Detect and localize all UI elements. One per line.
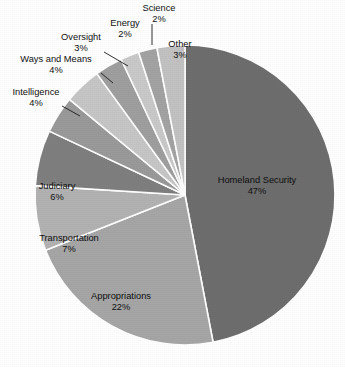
slice-label-ways-and-means: Ways and Means4% [20, 54, 92, 75]
slice-label-name: Homeland Security [218, 175, 297, 185]
slice-label-science: Science2% [142, 3, 175, 24]
slice-label-value: 2% [152, 14, 165, 24]
slice-label-name: Energy [110, 18, 140, 28]
pie-slices-group [35, 45, 335, 345]
pie-chart-canvas: Homeland Security47%Appropriations22%Tra… [0, 0, 345, 367]
slice-label-value: 47% [248, 186, 267, 196]
slice-label-energy: Energy2% [110, 18, 140, 39]
slice-label-name: Science [142, 3, 175, 13]
slice-label-value: 2% [118, 29, 131, 39]
slice-label-value: 3% [74, 43, 87, 53]
slice-label-value: 4% [49, 65, 62, 75]
slice-label-intelligence: Intelligence4% [12, 87, 59, 108]
slice-label-value: 7% [62, 244, 75, 254]
slice-label-name: Judiciary [39, 181, 76, 191]
slice-label-name: Oversight [61, 32, 101, 42]
pie-chart-figure: Homeland Security47%Appropriations22%Tra… [0, 0, 345, 367]
slice-label-name: Intelligence [12, 87, 59, 97]
slice-label-value: 3% [173, 50, 186, 60]
slice-label-value: 22% [112, 302, 131, 312]
slice-label-name: Ways and Means [20, 54, 92, 64]
slice-label-name: Appropriations [91, 291, 151, 301]
slice-label-value: 4% [29, 98, 42, 108]
slice-label-oversight: Oversight3% [61, 32, 101, 53]
slice-label-name: Transportation [39, 233, 99, 243]
slice-label-value: 6% [50, 192, 63, 202]
slice-label-name: Other [168, 39, 191, 49]
